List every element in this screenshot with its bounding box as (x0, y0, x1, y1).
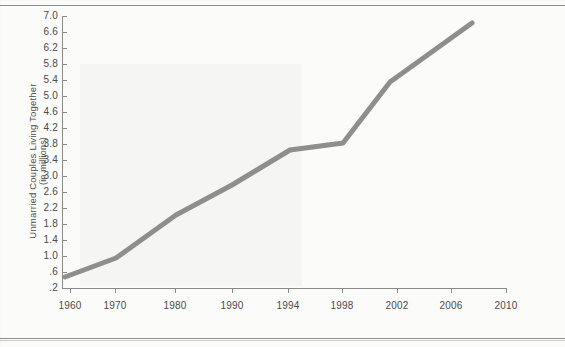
line-chart: Unmarried Couples Living Together (in mi… (0, 0, 565, 347)
data-series-polyline (0, 0, 565, 347)
